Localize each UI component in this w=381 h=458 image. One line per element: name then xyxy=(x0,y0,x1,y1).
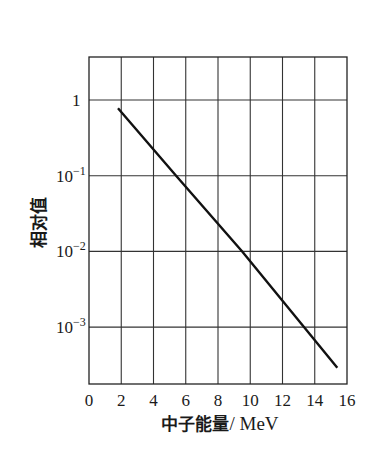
y-tick-label: 1 xyxy=(72,91,81,110)
x-axis-label-text: 中子能量 xyxy=(161,414,229,434)
x-tick-label: 16 xyxy=(339,391,356,410)
x-axis-label: 中子能量/ MeV xyxy=(161,413,278,434)
x-tick-label: 0 xyxy=(85,391,94,410)
x-tick-label: 10 xyxy=(242,391,259,410)
x-tick-label: 2 xyxy=(117,391,126,410)
x-tick-label: 6 xyxy=(182,391,191,410)
chart: 0246810121416 110−110−210−3 中子能量/ MeV 相对… xyxy=(0,0,381,458)
y-axis-label: 相对值 xyxy=(29,197,49,248)
x-tick-label: 14 xyxy=(306,391,324,410)
x-tick-label: 8 xyxy=(214,391,223,410)
y-tick-label: 10−3 xyxy=(56,315,86,337)
y-tick-label: 10−2 xyxy=(56,239,86,261)
x-tick-label: 4 xyxy=(149,391,158,410)
y-axis-ticks: 110−110−210−3 xyxy=(56,91,86,337)
x-axis-label-unit: / MeV xyxy=(229,413,278,434)
grid-lines xyxy=(89,57,347,384)
series-line xyxy=(118,108,337,368)
x-axis-ticks: 0246810121416 xyxy=(85,391,356,410)
data-series xyxy=(118,108,337,368)
y-tick-label: 10−1 xyxy=(56,164,86,186)
x-tick-label: 12 xyxy=(274,391,291,410)
